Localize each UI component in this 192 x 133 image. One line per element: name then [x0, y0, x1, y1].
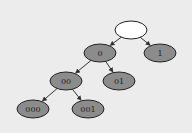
tree-diagram: 010001000001 [0, 0, 192, 133]
node-label: 0 [97, 49, 102, 58]
edge-n0-n01 [106, 61, 113, 71]
tree-node-01: 01 [103, 72, 135, 90]
edge-n00-n001 [72, 89, 80, 100]
node-ellipse [115, 21, 147, 39]
edge-n00-n000 [43, 89, 58, 101]
tree-node-001: 001 [72, 100, 104, 118]
node-label: 000 [25, 105, 40, 114]
edge-n0-n00 [76, 60, 91, 73]
node-label: 01 [114, 77, 124, 86]
tree-node-root [115, 21, 147, 39]
node-label: 00 [61, 77, 71, 86]
edge-root-n0 [110, 37, 121, 45]
tree-canvas: 010001000001 [0, 0, 192, 133]
tree-node-1: 1 [144, 44, 176, 62]
tree-node-0: 0 [84, 44, 116, 62]
node-label: 1 [157, 49, 162, 58]
tree-node-00: 00 [50, 72, 82, 90]
edge-root-n1 [140, 37, 150, 45]
tree-node-000: 000 [17, 100, 49, 118]
node-label: 001 [80, 105, 95, 114]
